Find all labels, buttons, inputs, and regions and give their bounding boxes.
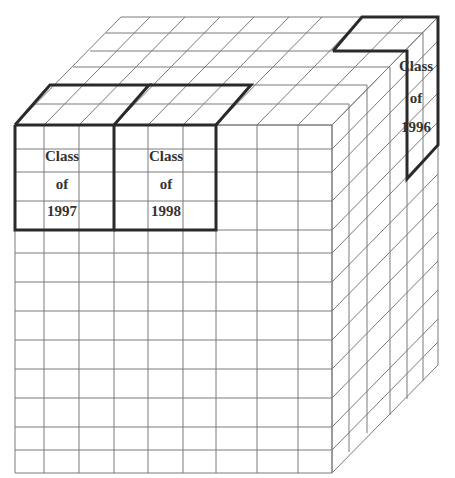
- slice-label-line: of: [160, 176, 174, 192]
- class-slice-outlines: [15, 17, 438, 230]
- grid-line: [332, 174, 438, 282]
- slice-label-line: Class: [149, 148, 183, 164]
- grid-line: [332, 232, 438, 340]
- slice-label-line: Class: [45, 148, 79, 164]
- grid-line: [332, 64, 438, 172]
- slice-label-line: 1998: [151, 203, 181, 219]
- data-cube-diagram: Class of 1997 Class of 1998 Class of 199…: [0, 0, 455, 478]
- grid-line: [332, 261, 438, 369]
- grid-line: [332, 319, 438, 427]
- cube-top-face-grid: [15, 17, 438, 125]
- slice-label-line: 1997: [47, 203, 78, 219]
- slice-label-line: 1996: [401, 119, 432, 135]
- grid-line: [44, 17, 150, 125]
- slice-label-class-1998: Class of 1998: [149, 148, 183, 219]
- slice-label-line: of: [410, 90, 424, 106]
- grid-line: [332, 342, 438, 450]
- grid-line: [332, 203, 438, 311]
- slice-label-line: of: [56, 176, 70, 192]
- slice-label-line: Class: [399, 58, 433, 74]
- slice-label-class-1996: Class of 1996: [399, 58, 433, 135]
- slice-label-class-1997: Class of 1997: [45, 148, 79, 219]
- grid-line: [332, 122, 438, 230]
